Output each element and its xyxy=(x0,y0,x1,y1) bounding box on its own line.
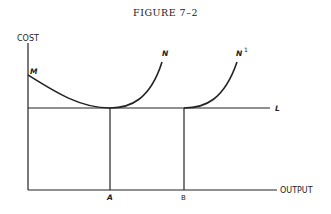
curve-label-m: M xyxy=(30,67,38,76)
curve-n1 xyxy=(184,62,237,108)
curve-mn xyxy=(28,62,162,108)
curve-label-n: N xyxy=(162,49,169,58)
line-label-l: L xyxy=(275,104,280,113)
curve-label-n1: N xyxy=(236,49,243,58)
y-axis-label: COST xyxy=(17,34,39,43)
cost-chart: COST OUTPUT M N N 1 L A B xyxy=(0,0,331,214)
point-label-b: B xyxy=(181,194,186,202)
point-label-a: A xyxy=(106,193,113,202)
x-axis-label: OUTPUT xyxy=(280,186,313,195)
curve-label-n1-superscript: 1 xyxy=(244,46,248,53)
